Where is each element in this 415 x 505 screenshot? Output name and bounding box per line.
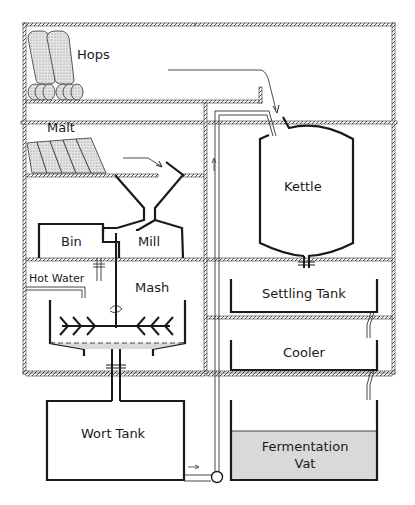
pump-icon <box>212 472 223 483</box>
wort-to-pump-pipe <box>184 465 211 481</box>
hot-water-pipe <box>26 287 85 298</box>
label-hot-water: Hot Water <box>29 273 84 284</box>
bin-pipe <box>93 258 105 281</box>
label-malt: Malt <box>47 121 75 134</box>
label-hops: Hops <box>77 48 110 61</box>
label-settling-tank: Settling Tank <box>262 287 346 300</box>
central-wall <box>204 103 207 371</box>
label-kettle: Kettle <box>284 180 322 193</box>
arrowhead-icon <box>156 161 162 167</box>
brewery-diagram <box>0 0 415 505</box>
label-bin: Bin <box>61 235 82 248</box>
hops-sacks <box>28 31 83 100</box>
label-fermentation: Fermentation <box>262 440 349 453</box>
label-mash: Mash <box>135 281 169 294</box>
label-vat: Vat <box>295 457 316 470</box>
malt-flow-arrow <box>123 158 161 166</box>
label-wort-tank: Wort Tank <box>81 427 145 440</box>
label-cooler: Cooler <box>283 346 325 359</box>
mash-liquid <box>50 343 185 349</box>
malt-sacks <box>27 138 106 173</box>
label-mill: Mill <box>138 235 160 248</box>
